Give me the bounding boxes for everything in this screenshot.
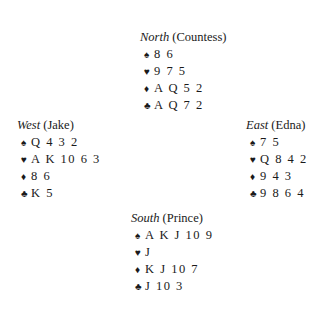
heart-icon: ♥ bbox=[144, 63, 154, 80]
diamonds-row: ♦8 6 bbox=[17, 168, 101, 185]
spades-row: ♠7 5 bbox=[246, 134, 308, 151]
spades-cards: Q 4 3 2 bbox=[31, 135, 79, 149]
diamond-icon: ♦ bbox=[135, 261, 145, 278]
club-icon: ♣ bbox=[144, 97, 154, 114]
seat-name: South bbox=[131, 211, 159, 225]
spade-icon: ♠ bbox=[250, 134, 260, 151]
seat-name: West bbox=[17, 118, 40, 132]
hearts-cards: J bbox=[145, 245, 151, 259]
hearts-row: ♥9 7 5 bbox=[140, 63, 226, 80]
clubs-row: ♣K 5 bbox=[17, 185, 101, 202]
spades-row: ♠Q 4 3 2 bbox=[17, 134, 101, 151]
clubs-cards: J 10 3 bbox=[145, 279, 184, 293]
diamond-icon: ♦ bbox=[21, 168, 31, 185]
spades-cards: 7 5 bbox=[260, 135, 280, 149]
heart-icon: ♥ bbox=[135, 244, 145, 261]
clubs-cards: K 5 bbox=[31, 186, 54, 200]
hearts-cards: 9 7 5 bbox=[154, 64, 187, 78]
heart-icon: ♥ bbox=[250, 151, 260, 168]
clubs-cards: 9 8 6 4 bbox=[260, 186, 305, 200]
spades-row: ♠8 6 bbox=[140, 46, 226, 63]
diamond-icon: ♦ bbox=[144, 80, 154, 97]
west-hand: West (Jake) ♠Q 4 3 2 ♥A K 10 6 3 ♦8 6 ♣K… bbox=[17, 117, 101, 202]
player-name: (Countess) bbox=[172, 30, 226, 44]
player-name: (Jake) bbox=[43, 118, 74, 132]
player-name: (Edna) bbox=[271, 118, 305, 132]
diamonds-cards: 8 6 bbox=[31, 169, 51, 183]
diamonds-row: ♦9 4 3 bbox=[246, 168, 308, 185]
hearts-row: ♥A K 10 6 3 bbox=[17, 151, 101, 168]
clubs-row: ♣A Q 7 2 bbox=[140, 97, 226, 114]
east-hand: East (Edna) ♠7 5 ♥Q 8 4 2 ♦9 4 3 ♣9 8 6 … bbox=[246, 117, 308, 202]
club-icon: ♣ bbox=[250, 185, 260, 202]
spade-icon: ♠ bbox=[135, 227, 145, 244]
north-hand: North (Countess) ♠8 6 ♥9 7 5 ♦A Q 5 2 ♣A… bbox=[140, 29, 226, 114]
clubs-row: ♣9 8 6 4 bbox=[246, 185, 308, 202]
spades-row: ♠A K J 10 9 bbox=[131, 227, 213, 244]
clubs-cards: A Q 7 2 bbox=[154, 98, 204, 112]
south-hand: South (Prince) ♠A K J 10 9 ♥J ♦K J 10 7 … bbox=[131, 210, 213, 295]
diamonds-cards: 9 4 3 bbox=[260, 169, 293, 183]
spade-icon: ♠ bbox=[21, 134, 31, 151]
hearts-cards: A K 10 6 3 bbox=[31, 152, 101, 166]
spades-cards: A K J 10 9 bbox=[145, 228, 213, 242]
hearts-row: ♥Q 8 4 2 bbox=[246, 151, 308, 168]
seat-name: North bbox=[140, 30, 169, 44]
spade-icon: ♠ bbox=[144, 46, 154, 63]
hearts-cards: Q 8 4 2 bbox=[260, 152, 308, 166]
hand-title: South (Prince) bbox=[131, 210, 213, 227]
clubs-row: ♣J 10 3 bbox=[131, 278, 213, 295]
diamonds-cards: K J 10 7 bbox=[145, 262, 199, 276]
hand-title: East (Edna) bbox=[246, 117, 308, 134]
diamonds-row: ♦K J 10 7 bbox=[131, 261, 213, 278]
club-icon: ♣ bbox=[135, 278, 145, 295]
club-icon: ♣ bbox=[21, 185, 31, 202]
spades-cards: 8 6 bbox=[154, 47, 174, 61]
hearts-row: ♥J bbox=[131, 244, 213, 261]
seat-name: East bbox=[246, 118, 268, 132]
hand-title: North (Countess) bbox=[140, 29, 226, 46]
diamond-icon: ♦ bbox=[250, 168, 260, 185]
diamonds-row: ♦A Q 5 2 bbox=[140, 80, 226, 97]
diamonds-cards: A Q 5 2 bbox=[154, 81, 204, 95]
heart-icon: ♥ bbox=[21, 151, 31, 168]
hand-title: West (Jake) bbox=[17, 117, 101, 134]
player-name: (Prince) bbox=[163, 211, 203, 225]
